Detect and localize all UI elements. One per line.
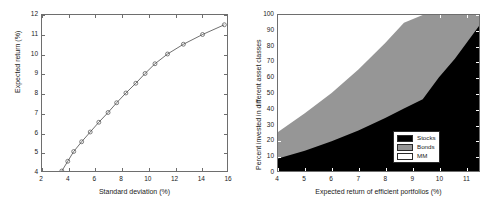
x-tick-mark xyxy=(95,15,96,18)
efficient-frontier-curve xyxy=(42,15,227,171)
y-tick-mark xyxy=(476,15,479,16)
x-tick-mark xyxy=(359,168,360,171)
y-tick-mark xyxy=(278,15,281,16)
frontier-data-point xyxy=(222,23,226,27)
y-tick-mark xyxy=(476,157,479,158)
y-tick-mark xyxy=(42,74,45,75)
y-tick-label: 4 xyxy=(27,169,38,176)
legend-label-stocks: Stocks xyxy=(417,135,436,141)
x-tick-mark xyxy=(413,15,414,18)
x-tick-mark xyxy=(440,15,441,18)
efficient-frontier-plot-area xyxy=(41,14,228,172)
x-tick-mark xyxy=(305,168,306,171)
x-tick-label: 10 xyxy=(144,176,151,183)
y-tick-mark xyxy=(476,31,479,32)
legend-swatch-stocks xyxy=(397,135,413,142)
x-tick-label: 8 xyxy=(383,176,387,183)
y-tick-label: 8 xyxy=(27,90,38,97)
x-tick-label: 16 xyxy=(224,176,231,183)
x-tick-label: 9 xyxy=(411,176,415,183)
x-tick-mark xyxy=(69,168,70,171)
x-tick-mark xyxy=(176,168,177,171)
y-tick-mark xyxy=(278,94,281,95)
x-tick-label: 8 xyxy=(119,176,123,183)
y-tick-mark xyxy=(278,78,281,79)
asset-allocation-areas xyxy=(278,15,479,171)
y-tick-mark xyxy=(278,141,281,142)
asset-allocation-chart: 45678910110102030405060708090100 Stocks … xyxy=(246,0,493,205)
x-tick-mark xyxy=(413,168,414,171)
figure-container: 246810121416456789101112 Standard deviat… xyxy=(0,0,493,205)
legend-swatch-bonds xyxy=(397,144,413,151)
x-tick-mark xyxy=(359,15,360,18)
x-tick-mark xyxy=(95,168,96,171)
x-tick-label: 4 xyxy=(66,176,70,183)
asset-allocation-y-axis-title: Percent invested in different asset clas… xyxy=(255,39,262,170)
asset-allocation-plot-area xyxy=(277,14,480,172)
x-tick-mark xyxy=(305,15,306,18)
legend-label-mm: MM xyxy=(417,153,427,159)
y-tick-mark xyxy=(224,153,227,154)
y-tick-label: 9 xyxy=(27,70,38,77)
x-tick-mark xyxy=(440,168,441,171)
y-tick-mark xyxy=(476,94,479,95)
x-tick-label: 6 xyxy=(329,176,333,183)
y-tick-mark xyxy=(42,94,45,95)
x-tick-label: 14 xyxy=(198,176,205,183)
y-tick-mark xyxy=(42,114,45,115)
x-tick-mark xyxy=(386,15,387,18)
y-tick-mark xyxy=(42,35,45,36)
y-tick-label: 6 xyxy=(27,129,38,136)
y-tick-mark xyxy=(476,47,479,48)
legend-item-stocks: Stocks xyxy=(397,134,436,142)
y-tick-mark xyxy=(42,153,45,154)
legend-label-bonds: Bonds xyxy=(417,144,435,150)
y-tick-mark xyxy=(476,141,479,142)
x-tick-mark xyxy=(122,168,123,171)
x-tick-label: 6 xyxy=(93,176,97,183)
y-tick-mark xyxy=(224,15,227,16)
y-tick-label: 7 xyxy=(27,110,38,117)
x-tick-mark xyxy=(69,15,70,18)
y-tick-mark xyxy=(278,126,281,127)
efficient-frontier-x-axis-title: Standard deviation (%) xyxy=(99,188,170,195)
x-tick-label: 10 xyxy=(436,176,443,183)
y-tick-mark xyxy=(224,55,227,56)
efficient-frontier-y-axis-title: Expected return (%) xyxy=(14,31,21,93)
y-tick-mark xyxy=(278,47,281,48)
x-tick-mark xyxy=(332,168,333,171)
y-tick-mark xyxy=(278,31,281,32)
x-tick-mark xyxy=(467,168,468,171)
y-tick-mark xyxy=(224,74,227,75)
legend-swatch-mm xyxy=(397,153,413,160)
x-tick-mark xyxy=(149,15,150,18)
y-tick-mark xyxy=(476,78,479,79)
y-tick-mark xyxy=(278,157,281,158)
x-tick-label: 4 xyxy=(275,176,279,183)
x-tick-label: 5 xyxy=(302,176,306,183)
x-tick-mark xyxy=(176,15,177,18)
x-tick-mark xyxy=(386,168,387,171)
efficient-frontier-chart: 246810121416456789101112 Standard deviat… xyxy=(0,0,247,205)
legend-item-mm: MM xyxy=(397,152,436,160)
asset-allocation-x-axis-title: Expected return of efficient portfolios … xyxy=(315,188,441,195)
legend-item-bonds: Bonds xyxy=(397,143,436,151)
y-tick-label: 100 xyxy=(259,11,274,18)
y-tick-label: 11 xyxy=(27,31,38,38)
x-tick-mark xyxy=(278,168,279,171)
x-tick-label: 11 xyxy=(463,176,470,183)
y-tick-mark xyxy=(278,110,281,111)
frontier-line xyxy=(62,25,225,171)
x-tick-label: 12 xyxy=(171,176,178,183)
x-tick-mark xyxy=(122,15,123,18)
y-tick-mark xyxy=(224,94,227,95)
x-tick-mark xyxy=(202,168,203,171)
y-tick-mark xyxy=(42,55,45,56)
y-tick-mark xyxy=(278,62,281,63)
y-tick-mark xyxy=(42,134,45,135)
x-tick-mark xyxy=(467,15,468,18)
y-tick-label: 90 xyxy=(259,27,274,34)
x-tick-label: 7 xyxy=(356,176,360,183)
x-tick-mark xyxy=(202,15,203,18)
y-tick-label: 5 xyxy=(27,149,38,156)
